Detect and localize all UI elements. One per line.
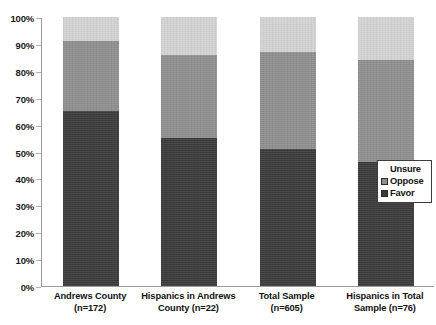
bar-segment-oppose [358, 60, 414, 162]
y-axis: 100%90%80%70%60%50%40%30%20%10%0% [0, 18, 41, 287]
legend-item-label: Unsure [390, 164, 421, 174]
y-tick-label: 50% [16, 147, 34, 158]
x-axis-category-line: (n=172) [41, 302, 139, 314]
bar-segment-oppose [260, 52, 316, 149]
x-axis-category-label: Hispanics in AndrewsCounty (n=22) [139, 290, 237, 314]
bar-stack [358, 18, 414, 286]
x-axis-category-line: Andrews County [41, 290, 139, 302]
bar-segment-unsure [63, 17, 119, 41]
bar-segment-unsure [260, 17, 316, 52]
bar-segment-oppose [63, 41, 119, 111]
bar-stack [63, 18, 119, 286]
y-tick-label: 80% [16, 66, 34, 77]
bar-group [260, 18, 316, 286]
bar-segment-favor [161, 138, 217, 286]
y-tick-label: 20% [16, 228, 34, 239]
x-axis-category-line: Hispanics in Total [336, 290, 434, 302]
bar-segment-unsure [161, 17, 217, 55]
legend-swatch-icon [381, 178, 388, 185]
x-axis-category-line: Sample (n=76) [336, 302, 434, 314]
chart-legend: UnsureOpposeFavor [377, 160, 432, 203]
legend-item-label: Favor [390, 188, 414, 198]
bar-segment-oppose [161, 55, 217, 138]
y-tick-label: 100% [11, 13, 35, 24]
x-axis-category-label: Andrews County(n=172) [41, 290, 139, 314]
legend-item-favor[interactable]: Favor [381, 187, 428, 199]
y-tick-label: 40% [16, 174, 34, 185]
y-tick-label: 10% [16, 255, 34, 266]
legend-swatch-icon [381, 190, 388, 197]
x-axis-category-label: Hispanics in TotalSample (n=76) [336, 290, 434, 314]
bar-segment-favor [63, 111, 119, 286]
x-axis-category-line: (n=605) [238, 302, 336, 314]
x-axis-category-line: Hispanics in Andrews [139, 290, 237, 302]
bar-stack [161, 18, 217, 286]
legend-item-unsure[interactable]: Unsure [381, 163, 428, 175]
y-tick-label: 0% [21, 282, 34, 293]
x-axis-category-label: Total Sample(n=605) [238, 290, 336, 314]
legend-swatch-icon [381, 166, 388, 173]
y-tick-label: 70% [16, 93, 34, 104]
bar-stack [260, 18, 316, 286]
x-axis-category-line: County (n=22) [139, 302, 237, 314]
x-axis-category-line: Total Sample [238, 290, 336, 302]
x-axis: Andrews County(n=172)Hispanics in Andrew… [41, 290, 434, 325]
legend-item-label: Oppose [390, 176, 423, 186]
bar-segment-unsure [358, 17, 414, 60]
bar-segment-favor [260, 149, 316, 286]
y-tick-mark [36, 287, 41, 288]
stacked-bar-chart: 100%90%80%70%60%50%40%30%20%10%0% Andrew… [0, 0, 436, 325]
bar-group [63, 18, 119, 286]
plot-area [41, 18, 434, 287]
y-tick-label: 30% [16, 201, 34, 212]
legend-item-oppose[interactable]: Oppose [381, 175, 428, 187]
y-tick-label: 90% [16, 39, 34, 50]
bar-group [161, 18, 217, 286]
bar-group [358, 18, 414, 286]
y-tick-label: 60% [16, 120, 34, 131]
